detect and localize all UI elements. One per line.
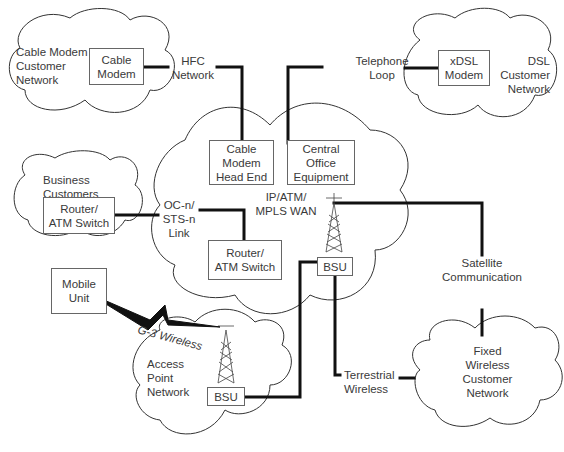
label-line: MPLS WAN <box>246 204 326 218</box>
box-text: Modem <box>97 67 135 81</box>
box-xdsl-modem: xDSLModem <box>438 50 490 86</box>
box-text: Cable <box>216 142 267 156</box>
cloud-label-core-wan: IP/ATM/ MPLS WAN <box>246 190 326 218</box>
label-line: OC-n/ <box>158 198 200 212</box>
cloud-label-cable-modem-customer: Cable Modem Customer Network <box>16 45 88 87</box>
cloud-label-fixed-wireless: Fixed Wireless Customer Network <box>455 344 520 400</box>
label-line: Customer <box>455 372 520 386</box>
label-line: Network <box>16 73 88 87</box>
box-text: Unit <box>62 291 96 305</box>
link-label-telephone: Telephone Loop <box>350 54 414 82</box>
box-text: Cable <box>97 53 135 67</box>
box-text: Modem <box>216 156 267 170</box>
label-line: Terrestrial <box>344 368 394 382</box>
label-line: Network <box>495 82 550 96</box>
lightning-bolt-icon <box>88 293 220 330</box>
label-line: Network <box>168 68 218 82</box>
box-central-office: CentralOfficeEquipment <box>287 140 355 185</box>
link-label-ocn: OC-n/ STS-n Link <box>158 198 200 240</box>
box-text: xDSL <box>445 54 483 68</box>
label-line: STS-n <box>158 212 200 226</box>
box-mobile-unit: MobileUnit <box>51 268 107 314</box>
label-line: Loop <box>350 68 414 82</box>
label-line: Fixed <box>455 344 520 358</box>
label-line: Network <box>455 386 520 400</box>
box-text: Modem <box>445 68 483 82</box>
box-text: Router/ <box>215 246 276 260</box>
label-line: Wireless <box>344 382 394 396</box>
label-line: Communication <box>440 270 524 284</box>
link-label-hfc: HFC Network <box>168 54 218 82</box>
label-line: DSL <box>495 54 550 68</box>
label-line: Wireless <box>455 358 520 372</box>
label-line: Network <box>147 385 189 399</box>
box-text: Central <box>294 142 349 156</box>
box-text: BSU <box>214 390 238 404</box>
box-text: ATM Switch <box>215 260 276 274</box>
box-text: Head End <box>216 170 267 184</box>
box-bsu-core: BSU <box>317 257 353 276</box>
label-line: Access <box>147 357 189 371</box>
label-line: IP/ATM/ <box>246 190 326 204</box>
label-line: Telephone <box>350 54 414 68</box>
box-core-router: Router/ATM Switch <box>208 240 282 280</box>
label-line: Satellite <box>440 256 524 270</box>
box-text: Router/ <box>49 202 110 216</box>
label-line: Link <box>158 226 200 240</box>
cloud-label-access-point: Access Point Network <box>147 357 189 399</box>
box-cable-modem-head-end: CableModemHead End <box>209 140 274 185</box>
label-line: Cable Modem <box>16 45 88 59</box>
box-text: Equipment <box>294 170 349 184</box>
label-line: Point <box>147 371 189 385</box>
label-line: Business <box>43 173 99 187</box>
box-text: Mobile <box>62 277 96 291</box>
box-text: BSU <box>323 260 347 274</box>
label-line: Customer <box>495 68 550 82</box>
box-bsu-access: BSU <box>207 387 245 406</box>
box-business-router: Router/ATM Switch <box>43 197 115 234</box>
label-line: Customer <box>16 59 88 73</box>
box-cable-modem: CableModem <box>89 48 144 85</box>
link-label-satellite: Satellite Communication <box>440 256 524 284</box>
label-line: HFC <box>168 54 218 68</box>
cloud-label-dsl-customer: DSL Customer Network <box>495 54 550 96</box>
box-text: Office <box>294 156 349 170</box>
box-text: ATM Switch <box>49 216 110 230</box>
link-label-terrestrial: Terrestrial Wireless <box>344 368 394 396</box>
